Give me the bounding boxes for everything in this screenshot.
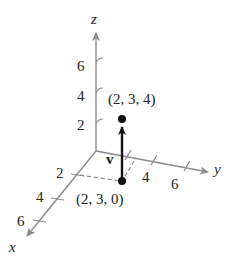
y-tick-4: 4 xyxy=(142,170,150,185)
axes-graphic xyxy=(0,0,231,275)
vector-label: v xyxy=(106,152,114,167)
z-tick-4: 4 xyxy=(77,89,85,104)
point-label-2-3-0: (2, 3, 0) xyxy=(76,192,124,207)
y-tick-6: 6 xyxy=(171,177,179,192)
x-tick-4: 4 xyxy=(36,190,44,205)
diagram-canvas: z y x 6 4 2 4 6 2 4 6 (2, 3, 4) (2, 3, 0… xyxy=(0,0,231,275)
point-label-2-3-4: (2, 3, 4) xyxy=(108,92,156,107)
z-tick-6: 6 xyxy=(77,59,85,74)
projection-dashed-y xyxy=(124,161,134,178)
z-axis-label: z xyxy=(91,12,97,27)
projection-dashed-x xyxy=(80,175,120,181)
point-2-3-4 xyxy=(118,115,126,123)
x-axis-label: x xyxy=(9,240,16,255)
y-axis-label: y xyxy=(214,162,221,177)
z-tick-2: 2 xyxy=(77,118,85,133)
x-tick-2: 2 xyxy=(56,166,64,181)
x-tick-6: 6 xyxy=(17,214,25,229)
point-2-3-0 xyxy=(118,177,126,185)
